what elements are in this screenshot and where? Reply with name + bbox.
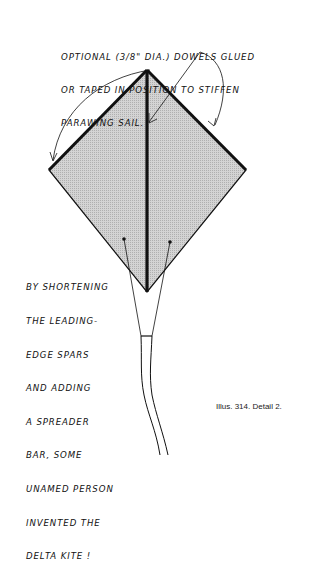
side-note-line-8: INVENTED THE: [26, 518, 114, 529]
tail-left-edge: [141, 336, 160, 455]
figure-caption: Illus. 314. Detail 2.: [216, 402, 282, 411]
top-note-line-2: OR TAPED IN POSITION TO STIFFEN: [61, 85, 255, 96]
side-note-line-3: EDGE SPARS: [26, 350, 114, 361]
side-note-line-5: A SPREADER: [26, 417, 114, 428]
side-note-line-6: BAR, SOME: [26, 450, 114, 461]
tail-right-edge: [150, 336, 168, 455]
top-note: OPTIONAL (3/8" DIA.) DOWELS GLUED OR TAP…: [61, 30, 255, 140]
side-note-line-4: AND ADDING: [26, 383, 114, 394]
top-note-line-1: OPTIONAL (3/8" DIA.) DOWELS GLUED: [61, 52, 255, 63]
side-note-line-2: THE LEADING-: [26, 316, 114, 327]
top-note-line-3: PARAWING SAIL.: [61, 118, 255, 129]
side-note-line-7: UNAMED PERSON: [26, 484, 114, 495]
side-note-line-9: DELTA KITE !: [26, 551, 114, 562]
side-note: BY SHORTENING THE LEADING- EDGE SPARS AN…: [26, 260, 114, 563]
side-note-line-1: BY SHORTENING: [26, 282, 114, 293]
